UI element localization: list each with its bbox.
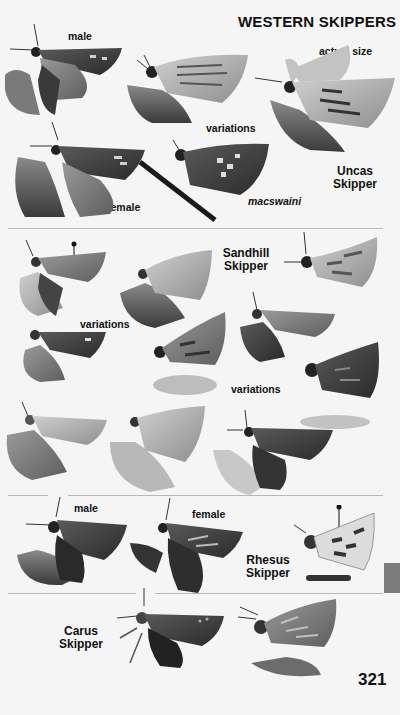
species-name-uncas: Uncas Skipper <box>330 165 380 191</box>
butterfly-uncas-macswaini <box>135 140 275 225</box>
butterfly-sandhill-10 <box>205 410 335 495</box>
butterfly-sandhill-1 <box>8 238 108 318</box>
butterfly-carus-underside <box>236 595 341 680</box>
species-name-carus: Carus Skipper <box>57 625 105 651</box>
butterfly-sandhill-8 <box>2 400 112 482</box>
pin-marker <box>72 242 77 247</box>
butterfly-rhesus-underside <box>284 505 379 590</box>
label-variations-2: variations <box>231 383 281 395</box>
butterfly-uncas-variation-1 <box>122 45 252 125</box>
actual-size-silhouette <box>290 45 350 82</box>
butterfly-uncas-male <box>0 20 130 120</box>
butterfly-sandhill-9 <box>105 402 210 494</box>
thumb-tab <box>384 563 400 593</box>
plate-divider <box>8 228 383 229</box>
pin-marker <box>337 505 342 510</box>
butterfly-rhesus-male <box>12 495 132 590</box>
species-name-sandhill: Sandhill Skipper <box>218 247 274 273</box>
species-name-line-2: Skipper <box>57 638 105 651</box>
butterfly-carus-upperside <box>112 588 232 673</box>
butterfly-rhesus-female <box>128 498 248 593</box>
field-guide-page: WESTERN SKIPPERS male actual size variat… <box>0 0 400 715</box>
species-name-line-2: Skipper <box>330 178 380 191</box>
page-number: 321 <box>358 670 386 690</box>
butterfly-sandhill-5 <box>140 310 230 400</box>
species-name-line-2: Skipper <box>218 260 274 273</box>
butterfly-uncas-female <box>10 122 145 222</box>
section-title: WESTERN SKIPPERS <box>238 13 396 30</box>
butterfly-sandhill-4 <box>10 320 110 390</box>
